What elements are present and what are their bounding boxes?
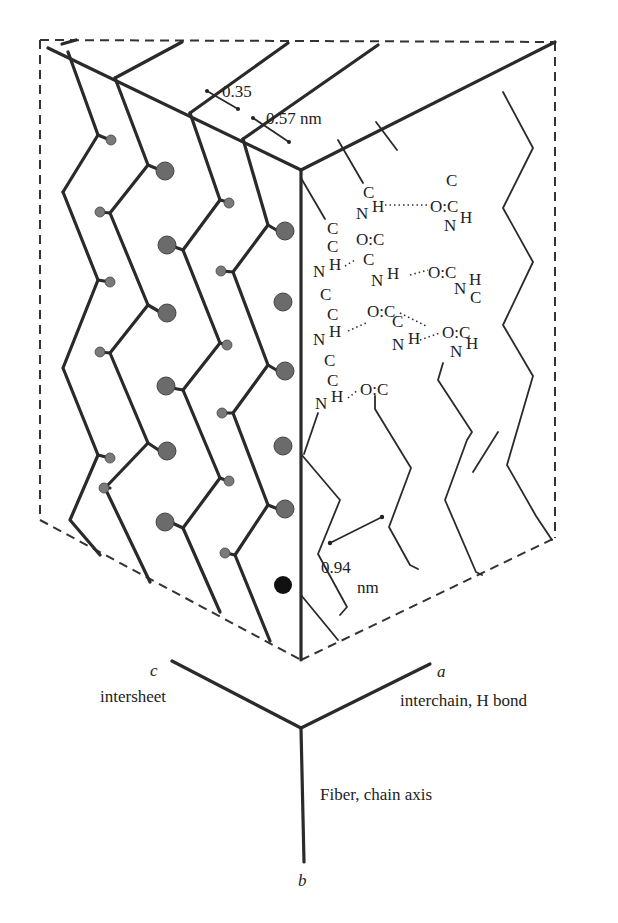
svg-text:C: C	[327, 237, 338, 256]
svg-text:N: N	[313, 262, 325, 281]
svg-text:C: C	[446, 171, 457, 190]
axis-system: c intersheet a interchain, H bond Fiber,…	[100, 661, 527, 890]
dimension-repeat: 0.94 nm	[321, 515, 384, 597]
svg-text:N: N	[313, 330, 325, 349]
svg-text:C: C	[392, 312, 403, 331]
svg-text:H: H	[329, 322, 341, 341]
svg-text:O:C: O:C	[356, 230, 384, 249]
svg-text:0.35: 0.35	[222, 82, 252, 101]
svg-text:H: H	[408, 329, 420, 348]
svg-text:N: N	[454, 279, 466, 298]
svg-text:H: H	[469, 270, 481, 289]
axis-c-letter: c	[150, 661, 158, 680]
axis-a-label: interchain, H bond	[400, 691, 527, 710]
svg-text:0.94: 0.94	[321, 558, 351, 577]
axis-a-letter: a	[437, 662, 446, 681]
svg-text:H: H	[372, 197, 384, 216]
svg-text:O:C: O:C	[430, 197, 458, 216]
svg-text:H: H	[466, 334, 478, 353]
svg-text:N: N	[371, 271, 383, 290]
peptide-atoms: C C N H C C N H C C N H C N H O:C C N H …	[313, 171, 481, 413]
svg-text:N: N	[315, 394, 327, 413]
svg-text:C: C	[363, 250, 374, 269]
highlighted-atom	[274, 576, 292, 594]
svg-text:H: H	[460, 208, 472, 227]
svg-text:C: C	[327, 219, 338, 238]
svg-text:O:C: O:C	[360, 380, 388, 399]
svg-text:N: N	[356, 204, 368, 223]
svg-text:N: N	[392, 335, 404, 354]
svg-text:N: N	[450, 342, 462, 361]
svg-text:H: H	[387, 264, 399, 283]
axis-b-label: Fiber, chain axis	[320, 785, 432, 804]
axis-c-label: intersheet	[100, 687, 166, 706]
svg-text:C: C	[324, 351, 335, 370]
svg-text:H: H	[329, 255, 341, 274]
svg-text:O:C: O:C	[428, 263, 456, 282]
svg-text:C: C	[470, 288, 481, 307]
left-face-chains	[63, 52, 294, 641]
svg-text:nm: nm	[357, 578, 379, 597]
axis-b-letter: b	[298, 871, 307, 890]
svg-text:H: H	[331, 387, 343, 406]
svg-text:N: N	[444, 216, 456, 235]
beta-sheet-diagram: C C N H C C N H C C N H C N H O:C C N H …	[0, 0, 618, 923]
svg-text:0.57 nm: 0.57 nm	[266, 109, 322, 128]
svg-text:C: C	[320, 285, 331, 304]
